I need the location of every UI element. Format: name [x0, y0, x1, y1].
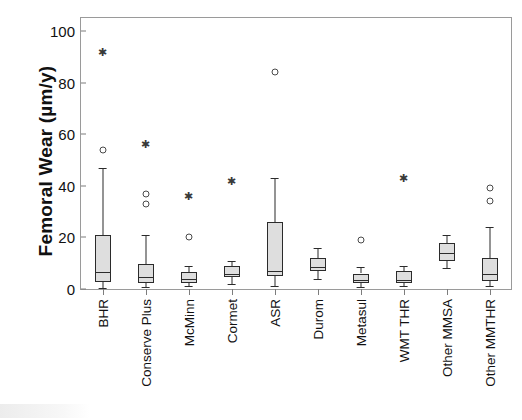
x-axis-tick-label: ASR [267, 299, 282, 327]
whisker-cap-lower [399, 286, 408, 287]
whisker-cap-lower [141, 287, 150, 288]
median-line [224, 274, 240, 275]
outlier-star: ✱ [227, 178, 236, 184]
x-axis-tick-label: BHR [95, 299, 110, 328]
box-iqr [95, 235, 111, 282]
median-line [353, 280, 369, 281]
whisker-cap-lower [356, 287, 365, 288]
whisker-upper [102, 168, 103, 235]
whisker-cap-upper [399, 266, 408, 267]
whisker-cap-lower [270, 286, 279, 287]
box-plot-group: ✱ [210, 18, 253, 289]
outlier-circle [357, 236, 364, 243]
median-line [267, 271, 283, 272]
box-iqr [181, 272, 197, 282]
x-axis-tick-mark [318, 289, 319, 295]
box-iqr [224, 266, 240, 278]
outlier-star: ✱ [141, 141, 150, 147]
whisker-cap-upper [98, 168, 107, 169]
whisker-cap-lower [313, 279, 322, 280]
box-plot-group [339, 18, 382, 289]
box-iqr [482, 258, 498, 281]
median-line [482, 274, 498, 275]
whisker-cap-upper [313, 248, 322, 249]
x-axis-tick-mark [447, 289, 448, 295]
whisker-cap-upper [442, 235, 451, 236]
x-axis-tick-mark [490, 289, 491, 295]
y-axis-tick-label: 40 [58, 177, 81, 194]
median-line [396, 280, 412, 281]
y-axis-tick-label: 0 [67, 281, 81, 298]
whisker-cap-upper [356, 267, 365, 268]
x-axis-tick-mark [361, 289, 362, 295]
median-line [181, 279, 197, 280]
outlier-circle [486, 198, 493, 205]
outlier-circle [271, 69, 278, 76]
box-plot-group: ✱ [124, 18, 167, 289]
whisker-upper [317, 248, 318, 258]
box-plot-group [425, 18, 468, 289]
x-axis-tick-mark [189, 289, 190, 295]
whisker-cap-upper [270, 178, 279, 179]
box-plot-group [468, 18, 511, 289]
box-plot-group [296, 18, 339, 289]
whisker-cap-upper [141, 235, 150, 236]
x-axis-tick-label: Other MMSA [439, 299, 454, 377]
y-axis-tick-label: 20 [58, 229, 81, 246]
outlier-star: ✱ [184, 193, 193, 199]
whisker-lower [446, 261, 447, 269]
whisker-cap-lower [98, 288, 107, 289]
box-iqr [353, 274, 369, 284]
outlier-circle [99, 146, 106, 153]
x-axis-tick-mark [103, 289, 104, 295]
whisker-cap-lower [227, 284, 236, 285]
median-line [439, 253, 455, 254]
box-plot-group [253, 18, 296, 289]
whisker-lower [274, 276, 275, 286]
plot-area: 020406080100BHRConserve PlusMcMinnCormet… [80, 17, 512, 290]
y-axis-tick-label: 100 [50, 22, 81, 39]
outlier-circle [142, 190, 149, 197]
outlier-circle [142, 200, 149, 207]
whisker-upper [446, 235, 447, 243]
outlier-circle [486, 185, 493, 192]
whisker-cap-lower [485, 286, 494, 287]
x-axis-tick-label: McMinn [181, 299, 196, 346]
x-axis-tick-label: Other MMTHR [482, 299, 497, 387]
x-axis-tick-mark [404, 289, 405, 295]
x-axis-tick-label: Conserve Plus [138, 299, 153, 387]
x-axis-tick-mark [146, 289, 147, 295]
x-axis-tick-label: Durom [310, 299, 325, 340]
outlier-star: ✱ [399, 175, 408, 181]
median-line [95, 272, 111, 273]
y-axis-tick-label: 60 [58, 126, 81, 143]
whisker-upper [274, 178, 275, 222]
chart-root: Femoral Wear (µm/y) 020406080100BHRConse… [0, 0, 522, 420]
whisker-upper [489, 227, 490, 258]
whisker-cap-upper [485, 227, 494, 228]
x-axis-tick-label: Metasul [353, 299, 368, 346]
whisker-cap-lower [184, 286, 193, 287]
whisker-cap-lower [442, 268, 451, 269]
box-plot-group: ✱ [382, 18, 425, 289]
whisker-lower [317, 271, 318, 279]
box-iqr [138, 264, 154, 282]
box-plot-group: ✱ [167, 18, 210, 289]
box-iqr [396, 271, 412, 283]
x-axis-tick-mark [232, 289, 233, 295]
median-line [138, 277, 154, 278]
x-axis-tick-label: WMT THR [396, 299, 411, 362]
y-axis-tick-label: 80 [58, 74, 81, 91]
whisker-cap-upper [184, 266, 193, 267]
box-iqr [310, 258, 326, 271]
x-axis-tick-mark [275, 289, 276, 295]
y-axis-title: Femoral Wear (µm/y) [35, 31, 57, 291]
box-iqr [267, 222, 283, 276]
outlier-star: ✱ [98, 49, 107, 55]
box-plot-group: ✱ [81, 18, 124, 289]
x-axis-tick-label: Cormet [224, 299, 239, 343]
whisker-upper [145, 235, 146, 265]
page-artifact [0, 404, 90, 418]
outlier-circle [185, 234, 192, 241]
whisker-cap-upper [227, 261, 236, 262]
